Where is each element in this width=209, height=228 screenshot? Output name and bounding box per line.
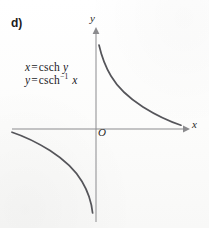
x-axis-arrowhead	[183, 126, 190, 133]
y-axis-label: y	[90, 12, 95, 24]
y-axis	[93, 27, 100, 222]
figure-panel: d) x=csch y y=csch−1 x y x O	[0, 0, 209, 228]
x-axis-label: x	[192, 118, 197, 130]
plot-canvas	[0, 0, 209, 228]
y-axis-arrowhead	[93, 27, 100, 34]
curve-branch-quadrant-iii	[12, 132, 93, 213]
curve-branch-quadrant-i	[99, 45, 181, 125]
origin-label: O	[98, 126, 106, 138]
